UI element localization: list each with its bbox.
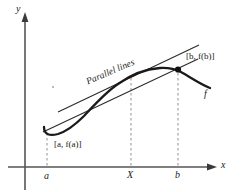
y-axis-label: y <box>16 4 20 14</box>
x-axis <box>8 164 217 171</box>
point-a-label: [a, f(a)] <box>54 140 81 149</box>
tick-label-X: X <box>127 170 133 180</box>
tick-label-a: a <box>44 171 49 181</box>
tick-label-b: b <box>175 170 180 180</box>
scan-speck <box>52 86 54 88</box>
y-axis <box>22 12 29 190</box>
curve-f-label: f <box>204 89 207 99</box>
x-axis-label: x <box>221 160 225 170</box>
mean-value-theorem-figure: y x a X b Parallel lines [a, f(a)] [b, f… <box>0 0 242 192</box>
point-b-dot <box>175 66 181 72</box>
function-curve <box>44 68 210 135</box>
point-b-label: [b, f(b)] <box>186 52 215 61</box>
